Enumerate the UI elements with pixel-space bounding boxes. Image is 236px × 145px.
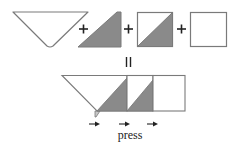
plus-icon [124, 25, 133, 34]
press-label: press [118, 128, 143, 142]
equals-icon [127, 57, 131, 67]
large-triangle-piece [13, 12, 88, 47]
assembled-light-square [153, 76, 185, 112]
arrow-right-icon [119, 122, 130, 127]
light-square-piece [191, 13, 227, 47]
plus-icon [79, 25, 88, 34]
arrow-right-icon [89, 122, 100, 127]
half-square-triangle-piece [138, 13, 173, 47]
plus-icon [177, 25, 186, 34]
top-row [13, 12, 227, 47]
piecing-diagram: press [0, 0, 236, 145]
seam-tail [95, 111, 100, 117]
assembled-row [62, 76, 185, 118]
press-arrows [89, 122, 158, 127]
arrow-right-icon [147, 122, 158, 127]
